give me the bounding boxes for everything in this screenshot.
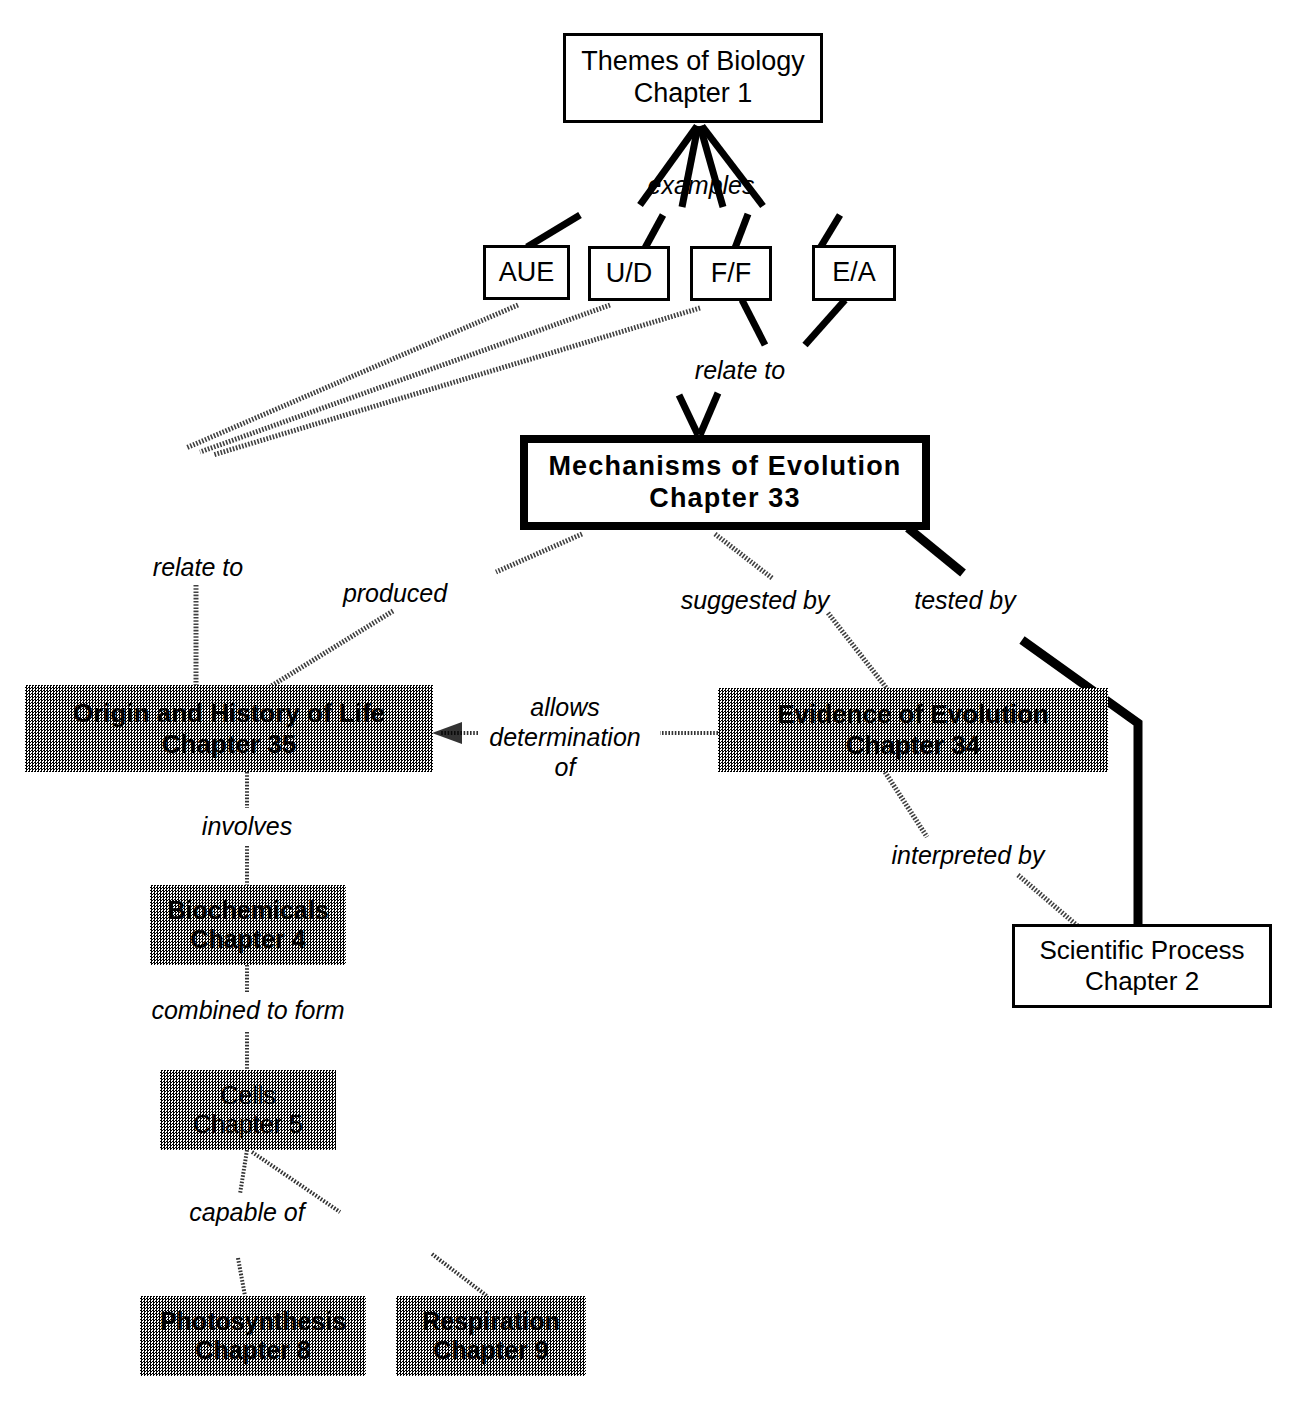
node-ud-label: U/D — [606, 258, 653, 290]
edge-produced-origin — [268, 611, 393, 688]
node-respiration-line2: Chapter 9 — [433, 1336, 548, 1366]
node-biochemicals-line2: Chapter 4 — [190, 925, 305, 955]
edge-mech-produced — [496, 534, 582, 572]
edge-capable-photosynthesis — [238, 1258, 245, 1296]
node-origin-and-history-of-life[interactable]: Origin and History of Life Chapter 35 — [25, 685, 433, 772]
edge-interpreted-scientific — [1018, 875, 1080, 928]
node-themes-line1: Themes of Biology — [581, 46, 805, 78]
link-label-produced: produced — [315, 578, 475, 608]
edge-cells-capable — [240, 1150, 247, 1194]
link-label-allows-determination-of: allows determination of — [470, 692, 660, 782]
node-origin-line1: Origin and History of Life — [73, 698, 385, 729]
link-label-interpreted-by: interpreted by — [838, 840, 1098, 870]
link-label-capable-of: capable of — [157, 1197, 337, 1227]
node-evidence-of-evolution[interactable]: Evidence of Evolution Chapter 34 — [718, 688, 1108, 772]
node-aue[interactable]: AUE — [483, 245, 570, 300]
node-ud[interactable]: U/D — [588, 246, 670, 301]
link-label-relate-to-origin: relate to — [108, 552, 288, 582]
connector-examples-lower — [527, 214, 840, 248]
node-cells[interactable]: Cells Chapter 5 — [160, 1070, 336, 1150]
edge-ff-origin — [213, 308, 700, 455]
connector-produced — [268, 534, 582, 688]
edge-examples-aue — [527, 215, 580, 247]
edge-examples-ea — [820, 215, 840, 248]
node-ff-label: F/F — [711, 258, 752, 290]
edge-relate-mech-b — [700, 393, 718, 435]
concept-map-canvas: Themes of Biology Chapter 1 AUE U/D F/F … — [0, 0, 1297, 1402]
node-themes-line2: Chapter 1 — [634, 78, 753, 110]
edge-ff-relate — [742, 300, 765, 345]
edge-ud-origin — [200, 305, 610, 452]
edge-respiration-in — [432, 1254, 487, 1296]
edge-relate-mech-a — [679, 395, 698, 435]
edge-tested-scientific — [1022, 640, 1138, 924]
node-scientific-line1: Scientific Process — [1039, 935, 1244, 966]
node-origin-line2: Chapter 35 — [162, 729, 296, 760]
node-ff[interactable]: F/F — [690, 246, 772, 301]
node-ea-label: E/A — [832, 257, 876, 289]
node-scientific-line2: Chapter 2 — [1085, 966, 1199, 997]
node-mechanisms-line2: Chapter 33 — [649, 483, 801, 515]
node-photosynthesis[interactable]: Photosynthesis Chapter 8 — [140, 1296, 366, 1376]
arrowhead-origin — [432, 722, 462, 744]
node-photosynthesis-line1: Photosynthesis — [160, 1307, 346, 1337]
link-label-involves: involves — [157, 811, 337, 841]
link-label-suggested-by: suggested by — [625, 585, 885, 615]
node-respiration-line1: Respiration — [422, 1307, 560, 1337]
edge-ea-relate — [805, 300, 845, 345]
node-evidence-line2: Chapter 34 — [846, 730, 980, 761]
node-aue-label: AUE — [499, 257, 555, 289]
edge-suggested-evidence — [828, 613, 888, 690]
edge-examples-ud — [645, 215, 663, 248]
link-label-examples: examples — [611, 170, 791, 200]
edge-mech-suggested — [715, 534, 772, 578]
node-biochemicals[interactable]: Biochemicals Chapter 4 — [150, 885, 346, 965]
edge-evidence-interpreted — [885, 772, 927, 837]
link-label-tested-by: tested by — [865, 585, 1065, 615]
link-label-relate-to-mechanisms: relate to — [650, 355, 830, 385]
node-themes-of-biology[interactable]: Themes of Biology Chapter 1 — [563, 33, 823, 123]
node-mechanisms-line1: Mechanisms of Evolution — [548, 451, 901, 483]
edge-examples-ff — [735, 214, 748, 248]
edge-mech-tested — [908, 528, 963, 573]
node-cells-line2: Chapter 5 — [193, 1110, 303, 1140]
node-evidence-line1: Evidence of Evolution — [777, 699, 1049, 730]
node-respiration[interactable]: Respiration Chapter 9 — [396, 1296, 586, 1376]
arrowhead-allows-determination — [432, 722, 462, 744]
edge-aue-origin — [186, 305, 518, 448]
node-cells-line1: Cells — [220, 1081, 276, 1111]
node-photosynthesis-line2: Chapter 8 — [195, 1336, 310, 1366]
node-scientific-process[interactable]: Scientific Process Chapter 2 — [1012, 924, 1272, 1008]
link-label-combined-to-form: combined to form — [103, 995, 393, 1025]
node-mechanisms-of-evolution[interactable]: Mechanisms of Evolution Chapter 33 — [520, 435, 930, 530]
node-ea[interactable]: E/A — [812, 245, 896, 301]
node-biochemicals-line1: Biochemicals — [167, 896, 328, 926]
